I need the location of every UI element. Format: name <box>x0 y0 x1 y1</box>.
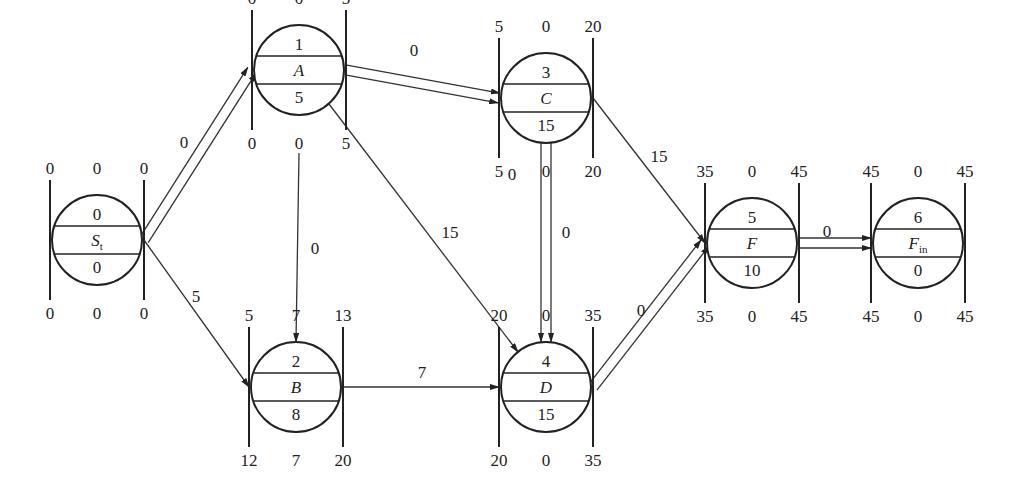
node-es: 0 <box>248 0 257 8</box>
node-label-main: F <box>746 234 758 253</box>
node-lf: 0 <box>140 304 149 323</box>
node-ls: 0 <box>46 304 55 323</box>
node-ff: 0 <box>542 451 551 470</box>
node-lf: 45 <box>957 307 974 326</box>
node-label-subscript: in <box>919 243 928 255</box>
extra-label: 0 <box>508 165 517 184</box>
node-ff: 0 <box>914 307 923 326</box>
edge-lag-label: 5 <box>192 287 201 306</box>
node-lf: 45 <box>791 307 808 326</box>
node-ff: 0 <box>748 307 757 326</box>
node-number: 2 <box>292 352 301 371</box>
edge-lag-label: 7 <box>418 363 427 382</box>
node-tf: 0 <box>93 159 102 178</box>
node-number: 5 <box>748 208 757 227</box>
node-es: 5 <box>495 17 504 36</box>
node-duration: 8 <box>292 405 301 424</box>
edge-lag-label: 0 <box>311 239 320 258</box>
edge-A-C: 0 <box>345 41 500 103</box>
node-ff: 0 <box>295 134 304 153</box>
node-ls: 5 <box>495 162 504 181</box>
node-label: D <box>539 378 553 397</box>
node-es: 35 <box>697 162 714 181</box>
node-tf: 0 <box>748 162 757 181</box>
node-duration: 5 <box>295 88 304 107</box>
node-lf: 20 <box>335 451 352 470</box>
node-es: 5 <box>245 306 254 325</box>
edge-line <box>144 240 249 387</box>
node-number: 6 <box>914 208 923 227</box>
node-ls: 35 <box>697 307 714 326</box>
node-ls: 45 <box>863 307 880 326</box>
node-lf: 35 <box>585 451 602 470</box>
node-ef: 45 <box>957 162 974 181</box>
node-label-main: B <box>291 378 302 397</box>
node-ff: 7 <box>292 451 301 470</box>
edge-lag-label: 15 <box>651 147 668 166</box>
node-ef: 13 <box>335 306 352 325</box>
edge-line <box>597 246 709 390</box>
node-St: 0St0000000 <box>46 159 149 323</box>
edge-St-A: 0 <box>140 67 256 242</box>
edge-F-Fin: 0 <box>799 222 871 248</box>
node-number: 4 <box>542 352 551 371</box>
node-es: 45 <box>863 162 880 181</box>
node-label: B <box>291 378 302 397</box>
edge-St-B: 5 <box>144 240 249 387</box>
node-duration: 0 <box>914 261 923 280</box>
node-label-main: D <box>539 378 553 397</box>
node-label: F <box>746 234 758 253</box>
node-tf: 0 <box>542 17 551 36</box>
node-A: 1A5005005 <box>248 0 351 153</box>
node-ls: 12 <box>241 451 258 470</box>
edge-C-F: 15 <box>593 98 705 243</box>
edge-lag-label: 0 <box>637 301 646 320</box>
node-label: A <box>293 61 305 80</box>
node-number: 3 <box>542 63 551 82</box>
node-number: 1 <box>295 35 304 54</box>
nodes-layer: 0St00000001A50050052B85713127203C1550205… <box>46 0 974 470</box>
node-lf: 5 <box>342 134 351 153</box>
edge-line <box>140 67 248 237</box>
node-duration: 10 <box>744 261 761 280</box>
edge-lag-label: 0 <box>180 133 189 152</box>
node-Fin: 6Fin04504545045 <box>863 162 974 326</box>
node-duration: 15 <box>538 405 555 424</box>
edge-B-D: 7 <box>343 363 499 387</box>
node-F: 5F103504535045 <box>697 162 808 326</box>
node-label: C <box>540 89 552 108</box>
node-ls: 0 <box>248 134 257 153</box>
node-ef: 5 <box>342 0 351 8</box>
node-lf: 20 <box>585 162 602 181</box>
node-ff: 0 <box>542 162 551 181</box>
node-number: 0 <box>93 205 102 224</box>
node-label-main: C <box>540 89 552 108</box>
node-ef: 35 <box>585 306 602 325</box>
node-es: 0 <box>46 159 55 178</box>
node-ef: 20 <box>585 17 602 36</box>
network-diagram: 0500150157000 0St00000001A50050052B85713… <box>0 0 1010 495</box>
node-D: 4D152003520035 <box>491 306 602 470</box>
node-label-subscript: t <box>100 240 103 252</box>
node-tf: 0 <box>542 306 551 325</box>
node-tf: 0 <box>914 162 923 181</box>
edge-lag-label: 0 <box>823 222 832 241</box>
node-duration: 0 <box>93 258 102 277</box>
edge-lag-label: 0 <box>562 223 571 242</box>
node-ef: 45 <box>791 162 808 181</box>
node-duration: 15 <box>538 116 555 135</box>
edge-lag-label: 15 <box>442 223 459 242</box>
node-label-main: A <box>293 61 305 80</box>
node-ls: 20 <box>491 451 508 470</box>
edge-line <box>148 73 256 243</box>
node-tf: 7 <box>292 306 301 325</box>
edge-lag-label: 0 <box>410 41 419 60</box>
node-tf: 0 <box>295 0 304 8</box>
node-ff: 0 <box>93 304 102 323</box>
edge-line <box>593 98 705 243</box>
node-label-main: F <box>908 234 920 253</box>
node-ef: 0 <box>140 159 149 178</box>
node-C: 3C1550205020 <box>495 17 602 181</box>
node-es: 20 <box>491 306 508 325</box>
edge-D-F: 0 <box>589 240 709 390</box>
